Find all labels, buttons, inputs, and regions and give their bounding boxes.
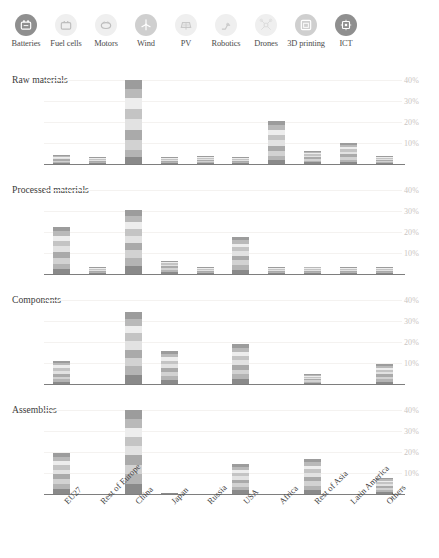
stacked-bar[interactable] — [340, 143, 357, 164]
bar-group — [44, 402, 402, 494]
technology-legend-item[interactable]: Wind — [126, 14, 166, 48]
bar-slot[interactable] — [295, 182, 331, 274]
stacked-bar[interactable] — [197, 267, 214, 274]
bar-segment — [125, 350, 142, 358]
stacked-bar[interactable] — [304, 374, 321, 384]
bar-slot[interactable] — [116, 292, 152, 384]
y-axis-tick-label: 30% — [404, 317, 419, 326]
fuel-cell-icon — [55, 14, 77, 36]
x-axis-tick: Africa — [259, 497, 295, 557]
bar-slot[interactable] — [44, 292, 80, 384]
technology-legend-item[interactable]: PV — [166, 14, 206, 48]
y-axis-tick-label: 20% — [404, 338, 419, 347]
bar-slot[interactable] — [366, 292, 402, 384]
stacked-bar[interactable] — [197, 156, 214, 164]
technology-legend-item[interactable]: Robotics — [206, 14, 246, 48]
robot-arm-icon — [215, 14, 237, 36]
x-axis-tick: EU27 — [44, 497, 80, 557]
bar-segment — [125, 375, 142, 384]
bar-slot[interactable] — [80, 402, 116, 494]
stacked-bar[interactable] — [125, 80, 142, 164]
bar-segment — [125, 366, 142, 375]
bar-segment — [125, 341, 142, 349]
stacked-bar[interactable] — [232, 237, 249, 274]
stacked-bar[interactable] — [376, 364, 393, 384]
stacked-bar[interactable] — [376, 156, 393, 164]
bar-segment — [125, 358, 142, 367]
y-axis-tick-label: 30% — [404, 427, 419, 436]
stacked-bar[interactable] — [340, 267, 357, 274]
bar-slot[interactable] — [295, 402, 331, 494]
stacked-bar[interactable] — [161, 157, 178, 164]
bar-slot[interactable] — [151, 72, 187, 164]
stacked-bar[interactable] — [232, 344, 249, 384]
bar-slot[interactable] — [330, 72, 366, 164]
stacked-bar[interactable] — [53, 453, 70, 494]
stacked-bar[interactable] — [53, 227, 70, 274]
bar-segment — [125, 157, 142, 164]
y-axis-tick-label: 40% — [404, 186, 419, 195]
bar-slot[interactable] — [223, 402, 259, 494]
stacked-bar[interactable] — [232, 157, 249, 164]
bar-slot[interactable] — [187, 292, 223, 384]
bar-slot[interactable] — [80, 182, 116, 274]
stacked-bar[interactable] — [161, 261, 178, 274]
stacked-bar[interactable] — [268, 121, 285, 164]
bar-slot[interactable] — [44, 402, 80, 494]
bar-segment — [125, 229, 142, 236]
bar-slot[interactable] — [187, 72, 223, 164]
bar-slot[interactable] — [116, 182, 152, 274]
stacked-bar[interactable] — [53, 361, 70, 384]
technology-legend-item[interactable]: Drones — [246, 14, 286, 48]
bar-slot[interactable] — [259, 402, 295, 494]
stacked-bar[interactable] — [125, 312, 142, 384]
technology-legend-item[interactable]: 3D printing — [286, 14, 326, 48]
stacked-bar[interactable] — [268, 267, 285, 274]
stacked-bar[interactable] — [376, 267, 393, 274]
bar-slot[interactable] — [187, 402, 223, 494]
x-axis-tick: USA — [223, 497, 259, 557]
bar-segment — [125, 236, 142, 243]
bar-slot[interactable] — [259, 72, 295, 164]
bar-slot[interactable] — [223, 292, 259, 384]
technology-legend-item[interactable]: Fuel cells — [46, 14, 86, 48]
bar-slot[interactable] — [223, 72, 259, 164]
bar-slot[interactable] — [151, 292, 187, 384]
bar-slot[interactable] — [295, 72, 331, 164]
bar-slot[interactable] — [259, 292, 295, 384]
bar-slot[interactable] — [330, 292, 366, 384]
bar-segment — [125, 130, 142, 140]
bar-slot[interactable] — [223, 182, 259, 274]
stacked-bar[interactable] — [304, 267, 321, 274]
stacked-bar[interactable] — [161, 351, 178, 384]
technology-legend-item[interactable]: ICT — [326, 14, 366, 48]
stacked-bar[interactable] — [89, 267, 106, 274]
technology-legend-item[interactable]: Motors — [86, 14, 126, 48]
stacked-bar[interactable] — [53, 155, 70, 164]
stacked-bar[interactable] — [89, 157, 106, 164]
bar-slot[interactable] — [80, 72, 116, 164]
x-axis-tick: Russia — [187, 497, 223, 557]
technology-legend: BatteriesFuel cellsMotorsWindPVRoboticsD… — [6, 14, 366, 64]
bar-slot[interactable] — [187, 182, 223, 274]
bar-slot[interactable] — [80, 292, 116, 384]
bar-slot[interactable] — [151, 182, 187, 274]
bar-segment — [125, 140, 142, 150]
bar-slot[interactable] — [330, 182, 366, 274]
stacked-bar[interactable] — [304, 459, 321, 494]
technology-legend-item[interactable]: Batteries — [6, 14, 46, 48]
stacked-bar[interactable] — [304, 151, 321, 164]
bar-slot[interactable] — [116, 72, 152, 164]
bar-slot[interactable] — [259, 182, 295, 274]
stacked-bar[interactable] — [125, 210, 142, 274]
bar-slot[interactable] — [366, 72, 402, 164]
bar-slot[interactable] — [366, 182, 402, 274]
bar-slot[interactable] — [151, 402, 187, 494]
bar-slot[interactable] — [44, 72, 80, 164]
solar-panel-icon — [175, 14, 197, 36]
bar-slot[interactable] — [295, 292, 331, 384]
chart-panel: Processed materials — [0, 180, 439, 280]
stacked-bar[interactable] — [232, 464, 249, 494]
bar-slot[interactable] — [44, 182, 80, 274]
y-axis-tick-label: 10% — [404, 249, 419, 258]
